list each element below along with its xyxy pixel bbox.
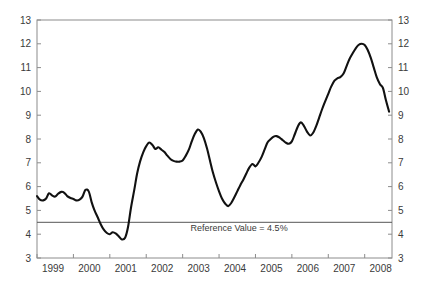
x-axis-tick-label: 2007	[333, 263, 356, 274]
x-axis-tick-label: 2000	[78, 263, 101, 274]
chart-container: 345678910111213 345678910111213 19992000…	[0, 0, 432, 291]
y-axis-tick-label-right: 10	[398, 86, 410, 97]
y-axis-tick-label-right: 12	[398, 38, 410, 49]
x-axis-tick-label: 2003	[188, 263, 211, 274]
x-axis-tick-label: 2001	[115, 263, 138, 274]
y-axis-tick-label: 3	[25, 253, 31, 264]
y-axis-labels-right: 345678910111213	[398, 15, 410, 264]
y-axis-tick-label: 4	[25, 229, 31, 240]
y-axis-labels-left: 345678910111213	[20, 15, 32, 264]
y-axis-tick-label-right: 13	[398, 15, 410, 26]
y-axis-tick-label: 5	[25, 205, 31, 216]
y-axis-tick-label-right: 8	[398, 134, 404, 145]
y-axis-tick-label-right: 9	[398, 110, 404, 121]
x-axis-tick-label: 2005	[260, 263, 283, 274]
y-axis-tick-label: 7	[25, 157, 31, 168]
x-axis-tick-label: 2002	[151, 263, 174, 274]
y-axis-tick-label: 8	[25, 134, 31, 145]
y-axis-tick-label: 11	[21, 62, 32, 73]
y-axis-tick-label-right: 4	[398, 229, 404, 240]
x-axis-tick-label: 2004	[224, 263, 247, 274]
y-axis-tick-label-right: 3	[398, 253, 404, 264]
y-axis-tick-label: 12	[20, 38, 32, 49]
y-axis-tick-label-right: 11	[398, 62, 409, 73]
y-axis-tick-label: 9	[25, 110, 31, 121]
reference-value-label: Reference Value = 4.5%	[190, 223, 287, 233]
x-axis-tick-label: 2008	[370, 263, 393, 274]
y-axis-tick-label-right: 7	[398, 157, 404, 168]
y-axis-tick-label: 10	[20, 86, 32, 97]
y-axis-tick-label-right: 5	[398, 205, 404, 216]
chart-annotations: Reference Value = 4.5%	[190, 223, 287, 233]
y-axis-tick-label-right: 6	[398, 181, 404, 192]
x-axis-labels: 1999200020012002200320042005200620072008	[42, 263, 392, 274]
line-chart: 345678910111213 345678910111213 19992000…	[0, 0, 432, 291]
x-axis-tick-label: 2006	[297, 263, 320, 274]
y-axis-tick-label: 13	[20, 15, 32, 26]
y-axis-tick-label: 6	[25, 181, 31, 192]
x-axis-tick-label: 1999	[42, 263, 65, 274]
